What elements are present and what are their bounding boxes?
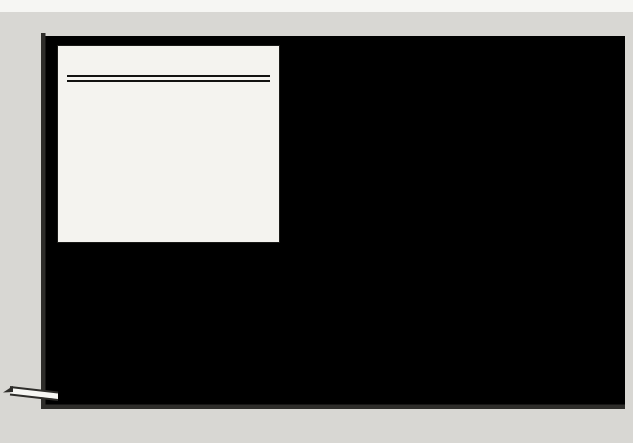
y-axis-line <box>41 33 46 409</box>
table-title <box>67 54 270 63</box>
header-rule <box>67 75 270 77</box>
x-axis-line <box>41 405 625 410</box>
footer-rule <box>67 80 270 82</box>
occupation-table <box>57 45 280 243</box>
figure-title <box>619 15 624 26</box>
figure-panel <box>0 0 633 443</box>
